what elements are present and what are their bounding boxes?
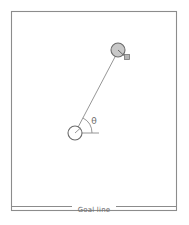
- goal-angle-diagram: θ Goal line: [0, 0, 189, 225]
- angle-symbol-label: θ: [91, 116, 97, 126]
- plot-frame: [12, 12, 177, 211]
- goal-line-label: Goal line: [78, 206, 111, 214]
- diagram-canvas: θ Goal line: [0, 0, 189, 225]
- ball-flag-marker: [125, 55, 130, 60]
